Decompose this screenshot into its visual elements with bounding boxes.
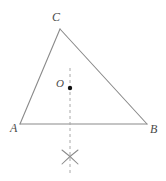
point-o-marker — [68, 86, 72, 90]
triangle-abc — [20, 29, 147, 124]
side-ca — [20, 29, 60, 124]
point-label-o: O — [56, 77, 64, 89]
vertex-label-c: C — [52, 11, 60, 23]
vertex-label-a: A — [10, 122, 17, 134]
geometry-figure: C A B O — [0, 0, 166, 181]
vertex-label-b: B — [150, 123, 157, 135]
geometry-drawing-canvas — [0, 0, 166, 181]
side-cb — [60, 29, 147, 124]
